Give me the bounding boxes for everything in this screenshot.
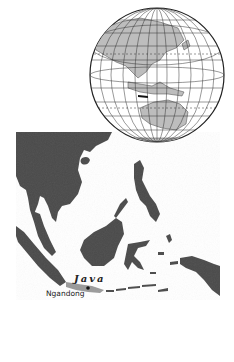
regional-map bbox=[16, 132, 220, 300]
java-label: Java bbox=[72, 273, 106, 284]
globe-locator bbox=[90, 8, 224, 150]
map-canvas: Java Ngandong bbox=[0, 0, 234, 362]
texture-overlay bbox=[16, 132, 220, 300]
ngandong-label: Ngandong bbox=[46, 289, 85, 298]
ngandong-site-marker bbox=[86, 286, 90, 290]
